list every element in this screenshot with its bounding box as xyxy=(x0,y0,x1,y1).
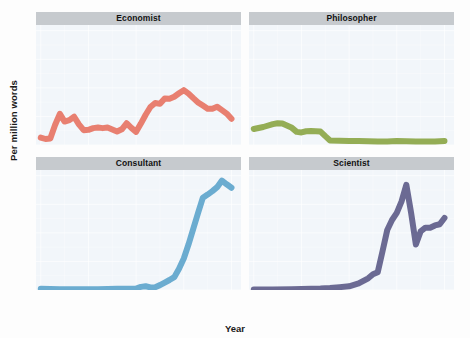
panel-title-economist: Economist xyxy=(116,14,160,23)
chart-figure: Per million words Year Economist 0102030… xyxy=(0,0,470,338)
y-axis-title: Per million words xyxy=(8,61,19,181)
plot-canvas-consultant xyxy=(36,170,241,290)
x-axis-title: Year xyxy=(0,323,470,334)
panel-title-consultant: Consultant xyxy=(116,159,161,168)
gridlines xyxy=(36,170,241,290)
panel-consultant: Consultant 01020304018001850190019502000 xyxy=(36,157,241,290)
gridlines xyxy=(249,25,454,145)
plot-canvas-philosopher xyxy=(249,25,454,145)
plot-area-consultant: 01020304018001850190019502000 xyxy=(36,170,241,290)
facet-grid: Economist 010203040 Philosopher Consulta… xyxy=(36,12,464,295)
plot-area-scientist: 18001850190019502000 xyxy=(249,170,454,290)
panel-title-scientist: Scientist xyxy=(333,159,369,168)
panel-philosopher: Philosopher xyxy=(249,12,454,145)
plot-canvas-economist xyxy=(36,25,241,145)
panel-strip-consultant: Consultant xyxy=(36,157,241,170)
panel-strip-scientist: Scientist xyxy=(249,157,454,170)
plot-canvas-scientist xyxy=(249,170,454,290)
panel-strip-economist: Economist xyxy=(36,12,241,25)
plot-area-philosopher xyxy=(249,25,454,145)
panel-strip-philosopher: Philosopher xyxy=(249,12,454,25)
panel-economist: Economist 010203040 xyxy=(36,12,241,145)
panel-title-philosopher: Philosopher xyxy=(326,14,376,23)
panel-scientist: Scientist 18001850190019502000 xyxy=(249,157,454,290)
plot-area-economist: 010203040 xyxy=(36,25,241,145)
